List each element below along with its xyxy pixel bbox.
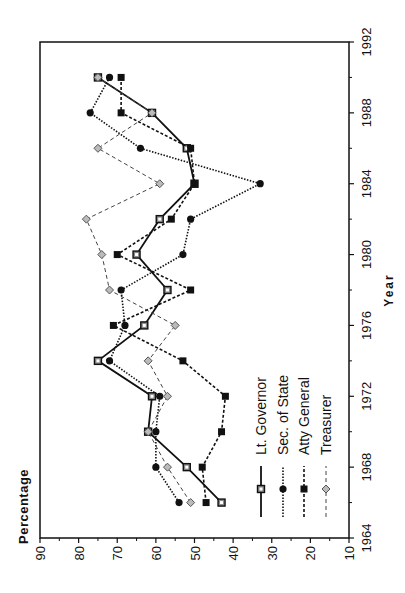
open-diamond-marker (106, 286, 114, 294)
year-tick-label: 1964 (359, 524, 374, 553)
filled-square-marker (168, 216, 175, 223)
marker-center (158, 218, 161, 221)
year-tick-label: 1988 (359, 98, 374, 127)
filled-square-marker (187, 145, 194, 152)
open-diamond-marker (144, 357, 152, 365)
filled-square-marker (114, 251, 121, 258)
marker-center (96, 359, 99, 362)
year-tick-label: 1968 (359, 453, 374, 482)
open-diamond-marker (156, 180, 164, 188)
series-line (98, 77, 222, 502)
legend-label: Lt. Governor (253, 377, 269, 455)
filled-circle-marker (106, 74, 113, 81)
filled-circle-marker (106, 357, 113, 364)
filled-circle-marker (187, 216, 194, 223)
filled-square-marker (203, 499, 210, 506)
filled-square-marker (218, 428, 225, 435)
filled-square-marker (118, 109, 125, 116)
pct-tick-label: 70 (110, 546, 125, 560)
legend-label: Atty General (296, 377, 312, 455)
filled-circle-marker (152, 428, 159, 435)
marker-center (185, 466, 188, 469)
filled-circle-marker (175, 499, 182, 506)
legend-label: Sec. of State (275, 375, 291, 455)
open-diamond-marker (94, 144, 102, 152)
year-tick-label: 1976 (359, 311, 374, 340)
open-diamond-marker (163, 463, 171, 471)
open-diamond-marker (171, 321, 179, 329)
filled-circle-marker (118, 286, 125, 293)
filled-square-marker (301, 486, 308, 493)
series-group (82, 73, 263, 506)
open-diamond-marker (187, 499, 195, 507)
filled-circle-marker (121, 322, 128, 329)
filled-circle-marker (279, 485, 286, 492)
pct-tick-label: 40 (226, 546, 241, 560)
marker-center (151, 395, 154, 398)
open-diamond-marker (322, 485, 330, 493)
filled-square-marker (222, 393, 229, 400)
filled-square-marker (187, 287, 194, 294)
marker-center (166, 289, 169, 292)
filled-square-marker (110, 322, 117, 329)
open-diamond-marker (163, 392, 171, 400)
ylabel: Percentage (16, 469, 31, 544)
pct-tick-label: 60 (149, 546, 164, 560)
marker-center (135, 253, 138, 256)
pct-tick-label: 20 (303, 546, 318, 560)
filled-square-marker (118, 74, 125, 81)
year-tick-label: 1972 (359, 382, 374, 411)
legend-label: Treasurer (318, 394, 334, 455)
filled-circle-marker (137, 145, 144, 152)
year-tick-label: 1980 (359, 240, 374, 269)
plot-frame (40, 42, 349, 538)
year-tick-label: 1984 (359, 169, 374, 198)
axes: 908070605040302010Percentage196419681972… (16, 28, 396, 561)
open-diamond-marker (98, 251, 106, 259)
filled-circle-marker (152, 464, 159, 471)
pct-tick-label: 90 (33, 546, 48, 560)
filled-circle-marker (179, 251, 186, 258)
filled-square-marker (179, 357, 186, 364)
marker-center (220, 501, 223, 504)
pct-tick-label: 50 (188, 546, 203, 560)
chart: 908070605040302010Percentage196419681972… (0, 0, 405, 593)
open-diamond-marker (82, 215, 90, 223)
filled-circle-marker (257, 180, 264, 187)
year-tick-label: 1992 (359, 28, 374, 57)
marker-center (260, 488, 263, 491)
legend: Lt. GovernorSec. of StateAtty GeneralTre… (253, 375, 334, 517)
filled-circle-marker (87, 109, 94, 116)
filled-square-marker (191, 180, 198, 187)
filled-circle-marker (156, 393, 163, 400)
pct-tick-label: 30 (265, 546, 280, 560)
pct-tick-label: 80 (72, 546, 87, 560)
marker-center (143, 324, 146, 327)
pct-tick-label: 10 (342, 546, 357, 560)
filled-square-marker (199, 464, 206, 471)
xlabel: Year (382, 273, 396, 306)
